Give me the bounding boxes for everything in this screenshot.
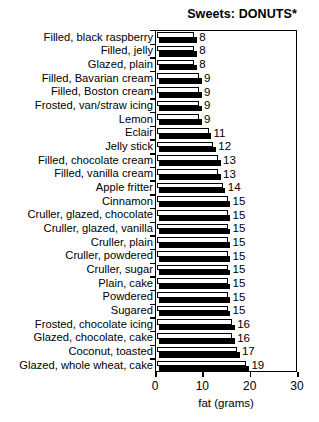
bar	[157, 87, 200, 98]
category-label: Sugared	[1, 304, 153, 317]
y-axis-tick	[150, 44, 155, 45]
bar-shadow	[159, 256, 230, 262]
bar-value-label: 9	[204, 72, 210, 85]
bar	[157, 128, 209, 139]
bar-shadow	[159, 366, 249, 372]
category-label: Frosted, chocolate icing	[1, 318, 153, 331]
bar-rows-container: Filled, black raspberry8Filled, jelly8Gl…	[0, 30, 319, 372]
bar-shadow	[159, 188, 225, 194]
bar-shadow	[159, 325, 235, 331]
bar-shadow	[159, 352, 239, 358]
y-axis-tick	[150, 222, 155, 223]
bar-shadow	[159, 229, 230, 235]
category-label: Cruller, powdered	[1, 249, 153, 262]
bar-value-label: 15	[233, 263, 246, 276]
bar-value-label: 17	[242, 345, 255, 358]
y-axis-tick	[150, 263, 155, 264]
y-axis-tick	[150, 317, 155, 318]
y-axis-tick	[150, 249, 155, 250]
bar-value-label: 12	[218, 140, 231, 153]
bar-value-label: 8	[199, 44, 205, 57]
y-axis-tick	[150, 153, 155, 154]
bar-value-label: 8	[199, 58, 205, 71]
category-label: Plain, cake	[1, 277, 153, 290]
x-axis-title: fat (grams)	[155, 397, 297, 409]
y-axis-tick	[150, 30, 155, 31]
bar-value-label: 11	[214, 127, 226, 140]
bar-value-label: 15	[233, 236, 246, 249]
category-label: Cruller, sugar	[1, 263, 153, 276]
x-axis-tick	[155, 372, 157, 377]
bar	[157, 265, 228, 276]
bar-value-label: 8	[199, 31, 205, 44]
bar-shadow	[159, 65, 197, 71]
x-axis-tick-label: 30	[277, 379, 317, 393]
bar-shadow	[159, 133, 211, 139]
category-label: Filled, vanilla cream	[1, 167, 153, 180]
category-label: Jelly stick	[1, 140, 153, 153]
y-axis-tick	[150, 180, 155, 181]
bar-value-label: 15	[233, 209, 246, 222]
bar	[157, 251, 228, 262]
y-axis-tick	[150, 57, 155, 58]
y-axis-tick	[150, 85, 155, 86]
bar-chart-figure: Sweets: DONUTS* Filled, black raspberry8…	[0, 0, 319, 422]
y-axis-tick	[150, 167, 155, 168]
bar-value-label: 13	[223, 168, 236, 181]
bar	[157, 237, 228, 248]
bar	[157, 169, 219, 180]
bar-shadow	[159, 92, 202, 98]
bar	[157, 361, 247, 372]
bar-shadow	[159, 242, 230, 248]
bar-value-label: 9	[204, 86, 210, 99]
bar-value-label: 15	[233, 304, 246, 317]
bar	[157, 32, 195, 43]
bar	[157, 155, 219, 166]
x-axis-tick-label: 20	[230, 379, 270, 393]
y-axis-tick	[150, 235, 155, 236]
bar-shadow	[159, 174, 221, 180]
bar-shadow	[159, 284, 230, 290]
bar	[157, 292, 228, 303]
bar-value-label: 16	[237, 318, 250, 331]
bar	[157, 73, 200, 84]
y-axis-tick	[150, 139, 155, 140]
bar-shadow	[159, 147, 216, 153]
chart-title: Sweets: DONUTS*	[0, 7, 297, 21]
bar	[157, 183, 223, 194]
y-axis-tick	[150, 345, 155, 346]
bar-value-label: 15	[233, 291, 246, 304]
category-label: Cinnamon	[1, 195, 153, 208]
category-label: Frosted, van/straw icing	[1, 99, 153, 112]
x-axis-tick	[250, 372, 252, 377]
category-label: Cruller, glazed, chocolate	[1, 208, 153, 221]
category-label: Filled, Boston cream	[1, 85, 153, 98]
y-axis-tick	[150, 71, 155, 72]
bar-value-label: 15	[233, 222, 246, 235]
bar-shadow	[159, 119, 202, 125]
category-label: Glazed, whole wheat, cake	[1, 359, 153, 372]
bar-value-label: 13	[223, 154, 236, 167]
category-label: Powdered	[1, 290, 153, 303]
category-label: Filled, Bavarian cream	[1, 72, 153, 85]
y-axis-tick	[150, 331, 155, 332]
category-label: Filled, jelly	[1, 44, 153, 57]
bar	[157, 333, 233, 344]
bar	[157, 224, 228, 235]
category-label: Cruller, glazed, vanilla	[1, 222, 153, 235]
y-axis-tick	[150, 194, 155, 195]
category-label: Coconut, toasted	[1, 345, 153, 358]
category-label: Filled, black raspberry	[1, 31, 153, 44]
bar-value-label: 9	[204, 113, 210, 126]
bar	[157, 60, 195, 71]
y-axis-tick	[150, 276, 155, 277]
category-label: Glazed, plain	[1, 58, 153, 71]
x-axis: fat (grams) 0102030	[0, 372, 319, 422]
y-axis-tick	[150, 98, 155, 99]
x-axis-tick	[297, 372, 299, 377]
y-axis-tick	[150, 208, 155, 209]
bar-shadow	[159, 78, 202, 84]
y-axis-tick	[150, 290, 155, 291]
category-label: Glazed, chocolate, cake	[1, 331, 153, 344]
category-label: Eclair	[1, 126, 153, 139]
